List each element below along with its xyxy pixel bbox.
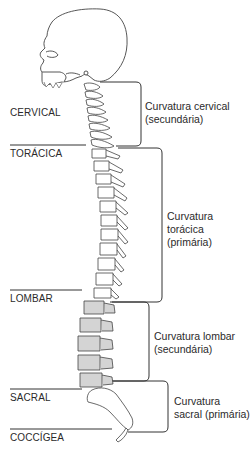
label-toracica: TORÁCICA [10, 148, 62, 160]
label-lombar: LOMBAR [10, 293, 53, 305]
label-cervical: CERVICAL [10, 107, 61, 119]
curvature-cervical-line1: Curvatura cervical [145, 100, 230, 113]
curvature-lombar-text: Curvatura lombar (secundária) [154, 330, 235, 356]
curvature-toracica-line3: (primária) [167, 236, 213, 249]
thoracic-vertebrae [92, 149, 128, 299]
lumbar-vertebrae [78, 301, 115, 387]
cervical-vertebrae [84, 83, 114, 148]
spine-diagram: CERVICAL TORÁCICA LOMBAR SACRAL COCCÍGEA… [0, 0, 252, 449]
curvature-cervical-text: Curvatura cervical (secundária) [145, 100, 230, 126]
curvature-toracica-line2: torácica [167, 223, 213, 236]
curvature-toracica-line1: Curvatura [167, 210, 213, 223]
sacrum-coccyx [87, 388, 133, 442]
curvature-sacral-line2: sacral (primária) [174, 408, 250, 421]
skull [40, 9, 127, 88]
curvature-lombar-line1: Curvatura lombar [154, 330, 235, 343]
curvature-toracica-text: Curvatura torácica (primária) [167, 210, 213, 249]
curvature-cervical-line2: (secundária) [145, 113, 230, 126]
curvature-sacral-line1: Curvatura [174, 395, 250, 408]
spine-illustration [0, 0, 252, 449]
curvature-sacral-text: Curvatura sacral (primária) [174, 395, 250, 421]
curvature-lombar-line2: (secundária) [154, 343, 235, 356]
label-sacral: SACRAL [10, 392, 51, 404]
label-coccigea: COCCÍGEA [10, 432, 64, 444]
bracket-lombar [108, 302, 149, 381]
